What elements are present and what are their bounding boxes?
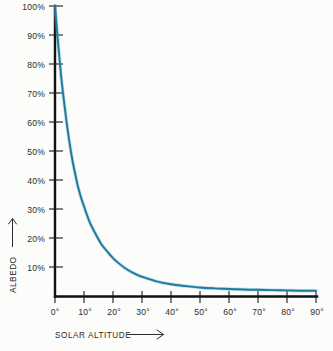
y-tick-label-50: 50% xyxy=(27,147,45,157)
y-tick-label-40: 40% xyxy=(27,176,45,186)
x-tick-label-80: 80° xyxy=(281,307,295,317)
x-tick-label-10: 10° xyxy=(78,307,92,317)
x-tick-label-70: 70° xyxy=(252,307,266,317)
y-tick-label-80: 80% xyxy=(27,60,45,70)
y-tick-label-10: 10% xyxy=(27,263,45,273)
chart-background xyxy=(0,0,333,351)
y-tick-label-20: 20% xyxy=(27,234,45,244)
y-tick-label-60: 60% xyxy=(27,118,45,128)
y-axis-title: ALBEDO xyxy=(9,256,18,293)
x-tick-label-20: 20° xyxy=(107,307,121,317)
x-tick-label-50: 50° xyxy=(194,307,208,317)
x-tick-label-40: 40° xyxy=(165,307,179,317)
x-tick-label-90: 90° xyxy=(310,307,324,317)
x-tick-label-60: 60° xyxy=(223,307,237,317)
y-tick-label-70: 70% xyxy=(27,89,45,99)
albedo-solar-altitude-chart: 100% 90% 80% 70% 60% 50% 40% 30% 20% 10% xyxy=(0,0,333,351)
y-tick-label-100: 100% xyxy=(22,2,45,12)
x-axis-title: SOLAR ALTITUDE xyxy=(55,331,131,340)
x-tick-label-30: 30° xyxy=(136,307,150,317)
x-tick-label-0: 0° xyxy=(51,307,60,317)
y-tick-label-90: 90% xyxy=(27,31,45,41)
y-tick-label-30: 30% xyxy=(27,205,45,215)
